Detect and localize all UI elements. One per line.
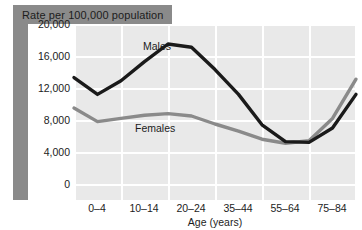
series-lines [0, 0, 362, 230]
line-series-males [74, 44, 356, 142]
chart-figure: Rate per 100,000 population 0 4,000 8,00… [0, 0, 362, 230]
line-series-females [74, 79, 356, 143]
